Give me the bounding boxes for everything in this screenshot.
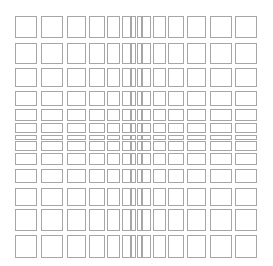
- grid-cell: [235, 188, 257, 206]
- grid-cell: [131, 109, 136, 121]
- grid-cell: [131, 169, 136, 183]
- grid-cell: [210, 123, 232, 133]
- grid-cell: [168, 209, 184, 231]
- grid-cell: [187, 43, 206, 64]
- grid-cell: [142, 209, 151, 231]
- grid-cell: [131, 123, 136, 133]
- grid-cell: [235, 141, 257, 151]
- grid-cell: [210, 235, 232, 258]
- grid-cell: [122, 209, 131, 231]
- grid-cell: [15, 209, 37, 231]
- grid-cell: [67, 109, 86, 121]
- grid-cell: [142, 68, 151, 87]
- grid-cell: [235, 235, 257, 258]
- grid-cell: [67, 153, 86, 165]
- grid-cell: [210, 188, 232, 206]
- grid-cell: [142, 16, 151, 38]
- grid-cell: [67, 188, 86, 206]
- grid-cell: [41, 169, 63, 183]
- grid-cell: [187, 169, 206, 183]
- grid-cell: [142, 188, 151, 206]
- grid-cell: [235, 109, 257, 121]
- grid-cell: [142, 141, 151, 151]
- grid-cell: [15, 43, 37, 64]
- grid-cell: [67, 16, 86, 38]
- grid-cell: [168, 153, 184, 165]
- grid-cell: [187, 188, 206, 206]
- grid-cell: [210, 141, 232, 151]
- grid-cell: [107, 169, 120, 183]
- grid-cell: [131, 16, 136, 38]
- grid-cell: [107, 91, 120, 106]
- grid-cell: [122, 16, 131, 38]
- grid-cell: [153, 169, 166, 183]
- grid-cell: [67, 68, 86, 87]
- grid-cell: [187, 141, 206, 151]
- grid-cell: [107, 153, 120, 165]
- grid-cell: [89, 16, 105, 38]
- grid-cell: [41, 43, 63, 64]
- grid-cell: [15, 235, 37, 258]
- grid-cell: [107, 123, 120, 133]
- grid-cell: [89, 109, 105, 121]
- grid-cell: [142, 109, 151, 121]
- grid-cell: [168, 135, 184, 140]
- grid-cell: [89, 91, 105, 106]
- grid-cell: [142, 169, 151, 183]
- grid-cell: [131, 91, 136, 106]
- grid-cell: [168, 91, 184, 106]
- grid-cell: [122, 109, 131, 121]
- grid-cell: [15, 16, 37, 38]
- grid-cell: [107, 135, 120, 140]
- grid-cell: [89, 141, 105, 151]
- grid-cell: [153, 235, 166, 258]
- grid-cell: [131, 209, 136, 231]
- grid-cell: [210, 109, 232, 121]
- grid-cell: [107, 43, 120, 64]
- grid-cell: [15, 109, 37, 121]
- grid-cell: [41, 135, 63, 140]
- grid-cell: [15, 135, 37, 140]
- grid-cell: [168, 109, 184, 121]
- grid-cell: [131, 188, 136, 206]
- grid-cell: [41, 68, 63, 87]
- grid-cell: [168, 68, 184, 87]
- grid-cell: [210, 153, 232, 165]
- grid-cell: [41, 123, 63, 133]
- grid-cell: [168, 43, 184, 64]
- grid-cell: [89, 169, 105, 183]
- grid-cell: [122, 153, 131, 165]
- grid-cell: [122, 123, 131, 133]
- grid-cell: [89, 209, 105, 231]
- grid-cell: [15, 141, 37, 151]
- grid-cell: [187, 68, 206, 87]
- grid-cell: [67, 235, 86, 258]
- grid-cell: [41, 91, 63, 106]
- grid-cell: [131, 68, 136, 87]
- grid-cell: [153, 43, 166, 64]
- grid-cell: [131, 153, 136, 165]
- grid-cell: [235, 68, 257, 87]
- grid-cell: [15, 153, 37, 165]
- grid-cell: [235, 123, 257, 133]
- grid-cell: [153, 123, 166, 133]
- grid-cell: [89, 153, 105, 165]
- grid-cell: [122, 43, 131, 64]
- grid-cell: [15, 91, 37, 106]
- rectangle-grid: [0, 0, 273, 266]
- grid-cell: [210, 68, 232, 87]
- grid-cell: [153, 153, 166, 165]
- grid-cell: [210, 91, 232, 106]
- grid-cell: [210, 169, 232, 183]
- grid-cell: [15, 123, 37, 133]
- grid-cell: [131, 135, 136, 140]
- grid-cell: [41, 153, 63, 165]
- grid-cell: [187, 109, 206, 121]
- grid-cell: [142, 91, 151, 106]
- grid-cell: [107, 68, 120, 87]
- grid-cell: [122, 135, 131, 140]
- grid-cell: [142, 43, 151, 64]
- grid-cell: [67, 141, 86, 151]
- grid-cell: [122, 141, 131, 151]
- grid-cell: [210, 43, 232, 64]
